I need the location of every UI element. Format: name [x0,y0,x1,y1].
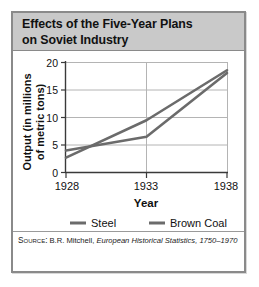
y-axis-ticks [61,63,65,173]
line-chart: 20 15 10 5 0 1928 1933 1938 Output (in m… [13,52,244,235]
legend-label-brown-coal: Brown Coal [170,217,227,229]
x-tick-label: 1933 [134,180,158,192]
y-tick-label: 15 [46,84,58,96]
x-axis-title: Year [134,197,159,209]
y-tick-labels: 20 15 10 5 0 [46,57,58,179]
y-axis-title-line2: of metric tons) [34,83,46,160]
y-tick-label: 5 [52,139,58,151]
y-tick-label: 10 [46,112,58,124]
chart-legend: Steel Brown Coal [70,217,227,229]
x-tick-label: 1938 [214,180,238,192]
source-citation: Source: B.R. Mitchell, European Historic… [18,236,240,247]
y-axis-title: Output (in millions of metric tons) [21,73,46,170]
chart-svg: 20 15 10 5 0 1928 1933 1938 Output (in m… [13,52,248,235]
legend-label-steel: Steel [91,217,116,229]
source-note: Source: B.R. Mitchell, European Historic… [13,231,244,271]
x-axis-ticks [66,173,227,179]
x-tick-label: 1928 [55,180,79,192]
figure-title: Effects of the Five-Year Plans on Soviet… [22,16,238,48]
y-axis-title-line1: Output (in millions [21,73,33,170]
source-work-continued: 1750–1970 [199,236,237,245]
source-label: Source: [18,236,47,245]
y-tick-label: 0 [52,167,58,179]
figure-card: Effects of the Five-Year Plans on Soviet… [11,11,246,273]
source-author: B.R. Mitchell, [50,236,95,245]
source-work: European Historical Statistics, [96,236,197,245]
x-tick-labels: 1928 1933 1938 [55,180,238,192]
title-banner: Effects of the Five-Year Plans on Soviet… [13,13,244,51]
y-tick-label: 20 [46,57,58,69]
